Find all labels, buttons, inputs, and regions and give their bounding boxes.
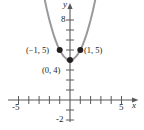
x-tick-label-5: 5: [119, 103, 124, 112]
y-tick-label-neg2: -2: [56, 115, 64, 124]
x-tick-label-neg5: -5: [12, 103, 20, 112]
y-tick-label-8: 8: [61, 15, 66, 24]
y-axis-label: y: [63, 0, 67, 9]
point-vertex: [67, 57, 73, 63]
point-left: [57, 47, 63, 53]
point-label-left: (−1, 5): [26, 46, 49, 55]
point-label-right: (1, 5): [84, 46, 102, 55]
x-axis-label: x: [132, 101, 136, 110]
point-right: [77, 47, 83, 53]
graph-figure: y x 8 -2 -5 5 (−1, 5) (1, 5) (0, 4): [0, 0, 144, 130]
point-label-vertex: (0, 4): [42, 66, 60, 75]
